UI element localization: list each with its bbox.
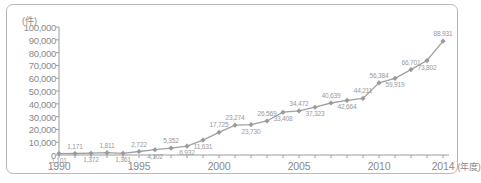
- data-marker: [328, 100, 333, 105]
- data-markers: [56, 39, 445, 157]
- data-marker: [152, 147, 157, 152]
- data-marker: [216, 130, 221, 135]
- data-marker: [344, 98, 349, 103]
- data-marker: [296, 108, 301, 113]
- data-line: [59, 41, 443, 153]
- data-marker: [280, 110, 285, 115]
- chart-axes: [56, 27, 449, 158]
- data-marker: [392, 76, 397, 81]
- data-marker: [168, 146, 173, 151]
- data-marker: [200, 138, 205, 143]
- data-marker: [184, 144, 189, 149]
- data-marker: [408, 67, 413, 72]
- data-marker: [248, 122, 253, 127]
- data-marker: [264, 118, 269, 123]
- data-marker: [232, 123, 237, 128]
- data-marker: [136, 149, 141, 154]
- data-marker: [312, 105, 317, 110]
